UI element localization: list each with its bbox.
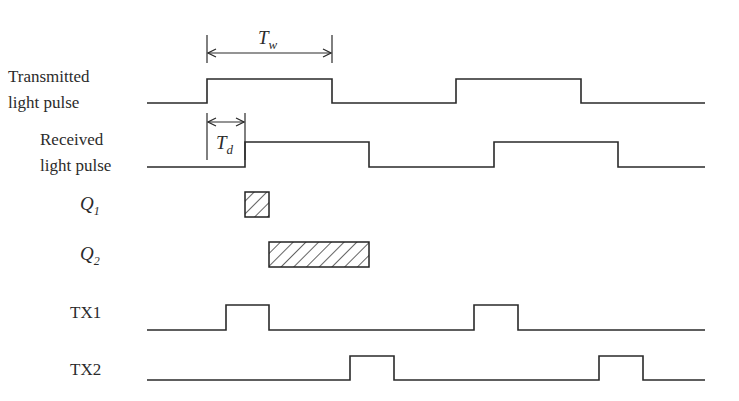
q2-hatched-box [269,242,369,267]
received-label-line2: light pulse [40,156,111,175]
q2-label: Q2 [80,243,100,268]
waveforms [147,79,705,380]
q1-label: Q1 [80,193,100,218]
timing-diagram: Transmitted light pulse Received light p… [0,0,739,401]
received-label-line1: Received [40,130,104,149]
transmitted-label-line1: Transmitted [8,67,90,86]
tx2-label: TX2 [70,360,101,379]
q1-hatched-box [245,192,269,217]
tx1-label: TX1 [70,303,101,322]
dimension-markers: TwTd [207,27,332,160]
transmitted-label-line2: light pulse [8,93,79,112]
transmitted-waveform [147,79,705,103]
tx2-waveform [147,356,705,380]
tw-label: Tw [258,27,278,52]
signal-labels: Transmitted light pulse Received light p… [8,67,111,379]
charge-boxes: Q1Q2 [80,192,369,268]
tx1-waveform [147,305,705,330]
td-label: Td [216,132,234,157]
